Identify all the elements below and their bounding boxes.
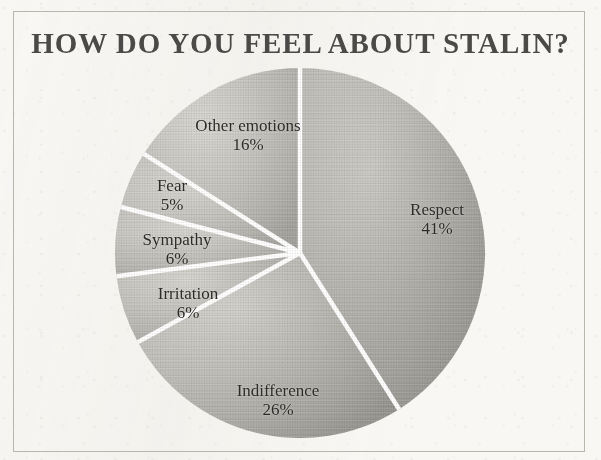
pie-slice-label-percent: 41% bbox=[410, 219, 464, 238]
pie-slice-label-name: Other emotions bbox=[195, 116, 300, 135]
chart-page: HOW DO YOU FEEL ABOUT STALIN? bbox=[0, 0, 601, 460]
pie-slice-label-percent: 26% bbox=[237, 400, 320, 419]
pie-slice-label-percent: 16% bbox=[195, 135, 300, 154]
pie-slice-label: Respect41% bbox=[410, 200, 464, 239]
pie-slice-label-percent: 6% bbox=[143, 249, 212, 268]
pie-slice-label-name: Sympathy bbox=[143, 230, 212, 249]
pie-slice-label-percent: 6% bbox=[158, 303, 218, 322]
pie-slice-label: Sympathy6% bbox=[143, 230, 212, 269]
pie-slice-label: Indifference26% bbox=[237, 381, 320, 420]
pie-slice-label-name: Irritation bbox=[158, 284, 218, 303]
pie-slice-label-percent: 5% bbox=[157, 195, 187, 214]
pie-slice-label: Other emotions16% bbox=[195, 116, 300, 155]
pie-slice-label-name: Fear bbox=[157, 176, 187, 195]
pie-slice-label-name: Respect bbox=[410, 200, 464, 219]
pie-slice-label: Fear5% bbox=[157, 176, 187, 215]
pie-slice-label-name: Indifference bbox=[237, 381, 320, 400]
pie-slice-label: Irritation6% bbox=[158, 284, 218, 323]
